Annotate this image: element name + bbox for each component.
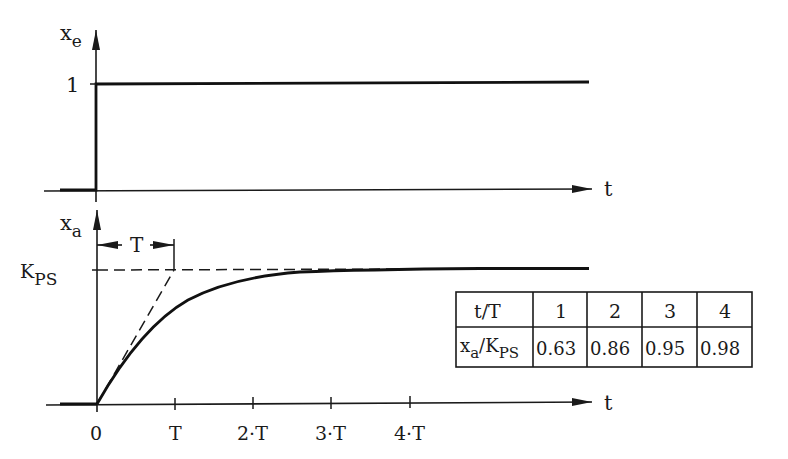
table-cell-t2: 2 xyxy=(609,300,621,322)
step-response-curve xyxy=(97,269,589,405)
tick-label-0: 0 xyxy=(90,422,102,444)
tick-label-3t: 3·T xyxy=(315,422,346,444)
top-plot: xe 1 t xyxy=(44,21,613,202)
table-cell-t4: 4 xyxy=(719,300,731,322)
bottom-x-axis xyxy=(46,402,592,405)
bottom-x-label: t xyxy=(604,391,613,415)
response-value-table: t/T 1 2 3 4 xa/KPS 0.63 0.86 0.95 0.98 xyxy=(456,292,752,367)
pt1-step-response-diagram: xe 1 t T xyxy=(0,0,788,459)
time-constant-dimension: T xyxy=(97,233,174,270)
top-x-label: t xyxy=(604,177,613,201)
level-one-label: 1 xyxy=(66,73,79,97)
table-cell-t3: 3 xyxy=(664,300,676,322)
table-header-xa-over-kps: xa/KPS xyxy=(460,335,519,362)
svg-text:T: T xyxy=(130,233,144,257)
kps-label: KPS xyxy=(20,260,57,289)
table-cell-v4: 0.98 xyxy=(700,338,740,359)
top-x-axis xyxy=(44,189,592,191)
tick-label-t: T xyxy=(169,422,182,444)
table-cell-v1: 0.63 xyxy=(536,338,576,359)
table-cell-v2: 0.86 xyxy=(590,338,630,359)
top-y-label: xe xyxy=(60,21,82,51)
table-cell-v3: 0.95 xyxy=(645,338,685,359)
table-cell-t1: 1 xyxy=(555,300,567,322)
table-header-t-over-T: t/T xyxy=(474,300,501,322)
tick-label-4t: 4·T xyxy=(394,422,425,444)
tick-label-2t: 2·T xyxy=(237,422,268,444)
bottom-y-label: xa xyxy=(60,211,82,241)
step-input-signal xyxy=(60,82,589,190)
